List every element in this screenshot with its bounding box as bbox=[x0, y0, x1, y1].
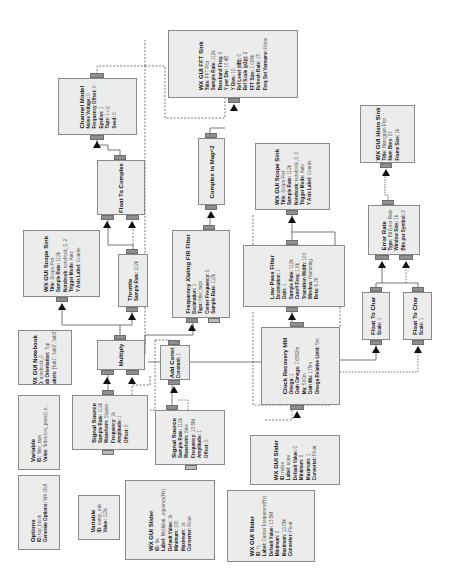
block-clock-recovery-mm[interactable]: Clock Recovery MM Omega: 1Gain Omega: 7.… bbox=[261, 327, 340, 405]
param-value: Sine bbox=[184, 423, 189, 432]
block-variable-filter-taps[interactable]: Variable ID: filter_tapsValue: firdes.lo… bbox=[18, 395, 60, 470]
input-port[interactable] bbox=[399, 255, 413, 260]
input-port[interactable] bbox=[290, 405, 304, 410]
input-port[interactable] bbox=[186, 318, 198, 323]
block-low-pass-filter[interactable]: Low Pass Filter Decimation: 1Gain: 1Samp… bbox=[243, 245, 345, 307]
param-value: notebook_0, 2 bbox=[62, 238, 67, 267]
output-port[interactable] bbox=[205, 133, 217, 138]
input-port[interactable] bbox=[228, 98, 240, 103]
block-multiply[interactable]: Multiply bbox=[97, 340, 145, 370]
param-value: FFT Plot bbox=[205, 61, 210, 79]
param-value: Carrier Frequency(Hz) bbox=[262, 496, 267, 542]
input-port[interactable] bbox=[102, 450, 114, 455]
param-key: ID: bbox=[256, 549, 261, 556]
block-complex-to-mag2[interactable]: Complex to Mag^2 bbox=[198, 138, 225, 205]
block-wx-gui-slider-fm[interactable]: WX GUI Slider ID: fmLabel: Modulati...eq… bbox=[125, 480, 215, 560]
param-key: ID: bbox=[280, 473, 285, 480]
input-port[interactable] bbox=[286, 210, 298, 215]
param-value: 0 bbox=[205, 269, 210, 272]
block-wx-gui-fft-sink[interactable]: WX GUI FFT Sink Title: FFT PlotSample Ra… bbox=[168, 30, 298, 98]
input-port[interactable] bbox=[126, 215, 139, 220]
param-key: Converter: bbox=[312, 456, 317, 481]
block-wx-gui-notebook[interactable]: WX GUI Notebook ID: notebook_0Tab Orient… bbox=[18, 330, 72, 385]
block-throttle[interactable]: Throttle Sample Rate: 112k bbox=[118, 254, 148, 307]
param-value: Hamming bbox=[308, 259, 313, 279]
input-port[interactable] bbox=[205, 205, 217, 210]
output-port[interactable] bbox=[168, 340, 180, 345]
block-wx-gui-scope-sink-right[interactable]: WX GUI Scope Sink Title: Scope PlotSampl… bbox=[255, 143, 330, 210]
block-signal-source-2[interactable]: Signal Source Sample Rate: 112kWaveform:… bbox=[155, 410, 225, 465]
param-value: 112k bbox=[287, 164, 292, 174]
block-wx-gui-slider-noise[interactable]: WX GUI Slider ID: noiseLabel: noiseDefau… bbox=[250, 435, 340, 485]
param-value: 0 bbox=[237, 54, 242, 57]
param-key: Ref Level (dB): bbox=[237, 57, 242, 91]
block-error-rate[interactable]: Error Rate Type: Bit Error RateWindow Si… bbox=[368, 205, 420, 255]
param-value: WX GUI bbox=[43, 483, 48, 500]
param-key: Omega: bbox=[288, 376, 293, 394]
param-value: 2 bbox=[401, 210, 406, 213]
output-port[interactable] bbox=[203, 225, 215, 230]
block-param: Noise Voltage: 0 bbox=[85, 85, 91, 128]
block-wx-gui-scope-sink-left[interactable]: WX GUI Scope Sink Title: Scope PlotSampl… bbox=[23, 230, 100, 297]
block-float-to-char-2[interactable]: Float To Char Scale: 1 bbox=[403, 292, 432, 340]
output-port[interactable] bbox=[114, 155, 126, 160]
output-port[interactable] bbox=[126, 249, 138, 254]
block-options[interactable]: Options ID: top_blockGenerate Options: W… bbox=[18, 475, 60, 550]
input-port[interactable] bbox=[101, 215, 114, 220]
param-value: noise bbox=[286, 454, 291, 465]
input-port[interactable] bbox=[370, 340, 382, 345]
param-value: Auto bbox=[69, 250, 74, 259]
block-title: Frequency Xlating FIR Filter bbox=[184, 234, 192, 314]
block-float-to-complex[interactable]: Float To Complex bbox=[97, 160, 145, 215]
input-port[interactable] bbox=[126, 370, 139, 375]
param-value: 1k bbox=[111, 412, 116, 417]
input-port[interactable] bbox=[286, 307, 298, 312]
output-port[interactable] bbox=[102, 390, 114, 395]
block-signal-source-1[interactable]: Signal Source Sample Rate: 112kWaveform:… bbox=[72, 395, 148, 450]
input-port[interactable] bbox=[126, 307, 138, 312]
param-key: Sample Rate: bbox=[287, 174, 292, 204]
block-title: Float To Complex bbox=[117, 163, 125, 213]
input-port[interactable] bbox=[101, 370, 114, 375]
param-value: Float bbox=[288, 522, 293, 532]
param-value: Counts bbox=[75, 247, 80, 262]
output-port[interactable] bbox=[412, 287, 424, 292]
output-port[interactable] bbox=[166, 405, 178, 410]
block-param: Epsilon: 1 bbox=[98, 85, 104, 128]
block-float-to-char-1[interactable]: Float To Char Scale: 1 bbox=[362, 292, 390, 340]
block-wx-gui-histo-sink[interactable]: WX GUI Histo Sink Title: Histogram PlotN… bbox=[360, 105, 415, 163]
block-param: Offset: 0 bbox=[124, 402, 130, 442]
input-port[interactable] bbox=[380, 163, 392, 168]
param-key: Default Value: bbox=[293, 449, 298, 481]
param-value: Float bbox=[187, 516, 192, 526]
arrow-icon bbox=[207, 211, 215, 218]
param-key: Freq Set Varname: bbox=[263, 49, 268, 91]
param-key: Title: bbox=[280, 192, 285, 204]
output-port[interactable] bbox=[114, 335, 126, 340]
block-variable-samp-rate[interactable]: Variable ID: samp_rateValue: 112k bbox=[78, 495, 120, 540]
param-key: Title: bbox=[49, 279, 54, 291]
block-title: Channel Model bbox=[77, 85, 85, 128]
input-port[interactable] bbox=[412, 340, 424, 345]
param-key: Seed: bbox=[111, 114, 116, 128]
output-port[interactable] bbox=[90, 73, 104, 78]
output-port[interactable] bbox=[382, 200, 394, 205]
input-port[interactable] bbox=[375, 255, 389, 260]
input-port[interactable] bbox=[185, 465, 197, 470]
block-channel-model[interactable]: Channel Model Noise Voltage: 0Frequency … bbox=[58, 78, 137, 135]
param-value: 0 bbox=[85, 93, 90, 96]
block-wx-gui-slider-fc[interactable]: WX GUI Slider ID: fcLabel: Carrier Frequ… bbox=[227, 490, 315, 562]
input-port[interactable] bbox=[208, 318, 220, 323]
input-port[interactable] bbox=[56, 297, 68, 302]
block-add-const[interactable]: Add Const Constant: 1 bbox=[160, 345, 190, 380]
block-frequency-xlating-fir-filter[interactable]: Frequency Xlating FIR Filter Decimation:… bbox=[172, 230, 230, 318]
param-key: FFT Size: bbox=[250, 69, 255, 91]
arrow-icon bbox=[382, 169, 390, 176]
input-port[interactable] bbox=[90, 135, 104, 140]
block-param: Title: Scope Plot bbox=[49, 235, 55, 291]
output-port[interactable] bbox=[290, 322, 304, 327]
input-port[interactable] bbox=[168, 380, 180, 385]
output-port[interactable] bbox=[370, 287, 382, 292]
param-value: 500m bbox=[301, 373, 306, 385]
output-port[interactable] bbox=[286, 240, 298, 245]
